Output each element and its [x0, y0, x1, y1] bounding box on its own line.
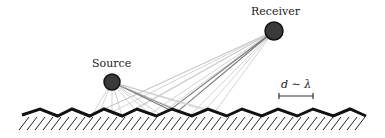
scale-label: d ∼ λ	[281, 78, 311, 91]
ground-hatching	[19, 117, 365, 130]
source-node	[104, 74, 120, 90]
rough-surface-scattering-diagram: Source Receiver d ∼ λ	[0, 0, 385, 138]
rough-surface	[22, 109, 366, 116]
scale-bar	[279, 93, 313, 99]
receiver-label: Receiver	[251, 5, 300, 18]
scattered-rays	[92, 31, 274, 116]
source-label: Source	[92, 57, 131, 70]
receiver-node	[265, 22, 283, 40]
diagram-canvas	[0, 0, 385, 138]
